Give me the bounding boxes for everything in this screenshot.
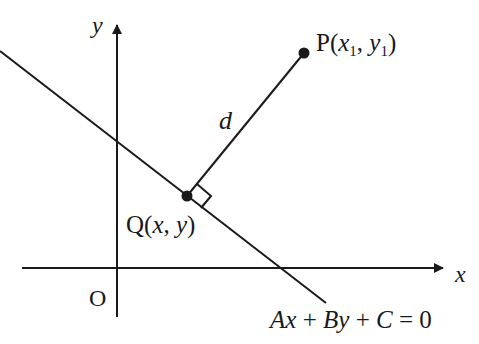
line-l	[0, 51, 326, 303]
point-q-dot	[182, 191, 193, 202]
distance-diagram: y x O d P(x1, y1) Q(x, y) Ax + By + C = …	[0, 0, 479, 344]
x-axis-label: x	[454, 261, 466, 287]
distance-label: d	[219, 106, 233, 135]
point-p-dot	[299, 48, 310, 59]
point-p-label: P(x1, y1)	[316, 29, 396, 59]
segment-pq	[187, 53, 304, 196]
y-axis-label: y	[90, 12, 103, 38]
line-equation-label: Ax + By + C = 0	[268, 306, 432, 333]
origin-label: O	[89, 285, 106, 311]
point-q-label: Q(x, y)	[126, 211, 195, 239]
